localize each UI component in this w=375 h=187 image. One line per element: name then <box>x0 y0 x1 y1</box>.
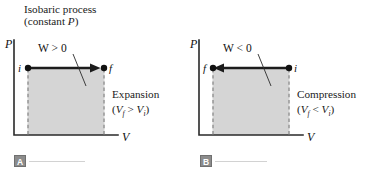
axis-label-p-b: P <box>189 37 198 51</box>
point-label-right-b: i <box>294 62 297 74</box>
point-label-left-b: f <box>203 62 208 74</box>
desc-close-b: ) <box>331 103 335 116</box>
figure-title-line1: Isobaric process <box>24 3 96 15</box>
work-area-shading-a <box>28 68 105 135</box>
panel-marker-row-a: A <box>14 155 174 169</box>
figure-title-line2: (constant P) <box>24 15 79 28</box>
axis-label-v-b: V <box>307 130 316 144</box>
point-initial-b <box>286 65 292 71</box>
desc-close-a: ) <box>146 103 150 116</box>
axis-label-p-a: P <box>4 37 13 51</box>
figure-title-prefix: (constant <box>24 15 68 28</box>
desc-rel-a: > <box>125 103 137 115</box>
work-label-b: W < 0 <box>223 42 252 54</box>
figure-caption <box>8 174 368 187</box>
panel-rule-b <box>215 161 267 162</box>
panel-b-diagram: P V f i W < 0 Compression (Vf < Vi) <box>188 0 375 175</box>
description-line1-a: Expansion <box>112 88 160 100</box>
point-label-left-a: i <box>18 62 21 74</box>
point-final-b <box>210 65 216 71</box>
figure-root: Isobaric process (constant P) P V i f <box>0 0 375 187</box>
panel-b: P V f i W < 0 Compression (Vf < Vi) <box>188 0 375 175</box>
figure-title-suffix: ) <box>75 15 79 28</box>
desc-rel-b: < <box>310 103 322 115</box>
point-initial-a <box>25 65 31 71</box>
point-final-a <box>101 65 107 71</box>
panel-marker-row-b: B <box>200 155 360 169</box>
panel-a: Isobaric process (constant P) P V i f <box>0 0 187 175</box>
panel-rule-a <box>29 161 85 162</box>
figure-title-var: P <box>67 15 75 27</box>
description-line2-a: (Vf > Vi) <box>112 103 150 118</box>
panel-badge-b: B <box>200 155 212 167</box>
work-area-shading-b <box>213 68 290 135</box>
panel-a-diagram: Isobaric process (constant P) P V i f <box>0 0 187 175</box>
description-line2-b: (Vf < Vi) <box>297 103 335 118</box>
point-label-right-a: f <box>109 62 114 74</box>
description-line1-b: Compression <box>297 88 356 100</box>
axis-label-v-a: V <box>122 130 131 144</box>
panel-badge-a: A <box>14 155 26 167</box>
work-label-a: W > 0 <box>38 42 67 54</box>
